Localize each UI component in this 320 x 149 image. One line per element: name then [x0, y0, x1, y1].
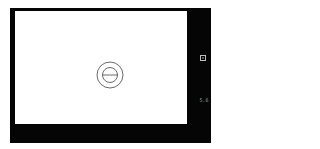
- focus-frame-icon: [200, 55, 206, 61]
- center-focus-reticle-icon: [96, 61, 124, 89]
- aperture-value: 5.6: [198, 97, 210, 103]
